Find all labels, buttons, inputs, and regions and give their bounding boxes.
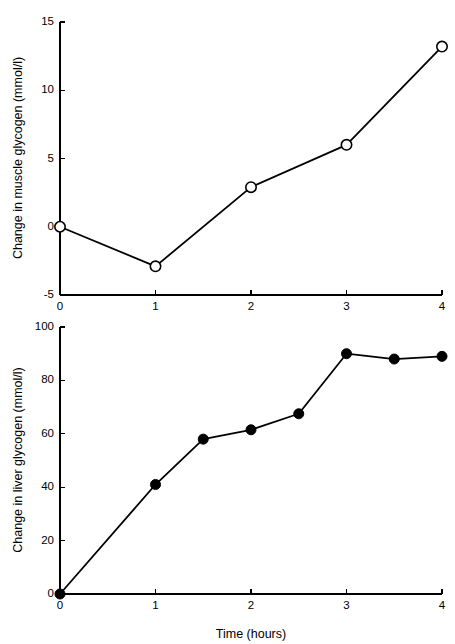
liver-y-tick-label: 0 (48, 587, 54, 599)
shared-x-axis-label: Time (hours) (216, 627, 286, 641)
muscle-data-point (150, 261, 160, 271)
muscle-glycogen-series-line (60, 47, 442, 267)
liver-y-tick-label: 40 (41, 480, 54, 492)
muscle-data-point (437, 41, 447, 51)
liver-y-tick-label: 80 (41, 373, 54, 385)
liver-data-point (198, 434, 208, 444)
liver-x-tick-label: 0 (57, 599, 63, 611)
muscle-x-tick-label: 2 (248, 300, 254, 312)
muscle-data-point (55, 222, 65, 232)
muscle-data-point (341, 140, 351, 150)
liver-x-tick-label: 2 (248, 599, 254, 611)
muscle-x-ticks: 01234 (57, 290, 446, 312)
liver-glycogen-data-points (55, 349, 447, 599)
muscle-y-tick-label: 0 (48, 220, 54, 232)
muscle-x-tick-label: 4 (439, 300, 446, 312)
muscle-x-tick-label: 1 (152, 300, 158, 312)
liver-y-tick-label: 60 (41, 427, 54, 439)
liver-x-tick-label: 1 (152, 599, 158, 611)
liver-glycogen-series-line (60, 354, 442, 594)
liver-data-point (389, 354, 399, 364)
muscle-y-axis-label: Change in muscle glycogen (mmol/l) (11, 57, 25, 259)
muscle-y-ticks: -5051015 (41, 15, 65, 300)
muscle-glycogen-data-points (55, 41, 447, 271)
muscle-data-point (246, 182, 256, 192)
liver-data-point (55, 589, 65, 599)
liver-x-ticks: 01234 (57, 589, 446, 611)
muscle-glycogen-plot: -5051015 01234 Change in muscle glycogen… (0, 0, 455, 320)
liver-data-point (246, 425, 256, 435)
figure-two-panel-glycogen: -5051015 01234 Change in muscle glycogen… (0, 0, 455, 644)
chart-panel-muscle-glycogen: -5051015 01234 Change in muscle glycogen… (0, 0, 455, 320)
liver-glycogen-plot: 020406080100 01234 Change in liver glyco… (0, 320, 455, 644)
muscle-y-tick-label: 10 (41, 83, 54, 95)
liver-x-tick-label: 3 (343, 599, 349, 611)
chart-panel-liver-glycogen: 020406080100 01234 Change in liver glyco… (0, 320, 455, 644)
muscle-y-tick-label: -5 (44, 288, 54, 300)
liver-y-tick-label: 100 (35, 320, 54, 332)
muscle-y-tick-label: 5 (48, 152, 54, 164)
liver-data-point (151, 480, 161, 490)
liver-y-axis-label: Change in liver glycogen (mmol/l) (11, 367, 25, 553)
liver-x-tick-label: 4 (439, 599, 446, 611)
liver-data-point (437, 351, 447, 361)
liver-data-point (342, 349, 352, 359)
muscle-x-tick-label: 3 (343, 300, 349, 312)
liver-y-tick-label: 20 (41, 534, 54, 546)
muscle-y-tick-label: 15 (41, 15, 54, 27)
liver-data-point (294, 409, 304, 419)
muscle-x-tick-label: 0 (57, 300, 63, 312)
